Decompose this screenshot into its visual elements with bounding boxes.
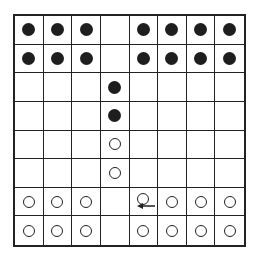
board-cell-r2-c7 xyxy=(215,73,244,102)
board-cell-r1-c2 xyxy=(72,45,101,74)
board-cell-r7-c5 xyxy=(158,216,187,245)
arrow-left-icon xyxy=(137,202,155,210)
board-cell-r6-c6 xyxy=(187,188,216,217)
board-cell-r0-c0 xyxy=(15,16,44,45)
board-cell-r5-c5 xyxy=(158,159,187,188)
board-cell-r3-c2 xyxy=(72,102,101,131)
board-cell-r0-c6 xyxy=(187,16,216,45)
black-piece-icon xyxy=(165,23,178,36)
board-cell-r7-c0 xyxy=(15,216,44,245)
board-cell-r4-c1 xyxy=(44,131,73,160)
board-cell-r5-c3 xyxy=(101,159,130,188)
white-piece-icon xyxy=(224,196,236,208)
board-cell-r2-c5 xyxy=(158,73,187,102)
board-cell-r5-c7 xyxy=(215,159,244,188)
board-cell-r5-c0 xyxy=(15,159,44,188)
board-cell-r4-c3 xyxy=(101,131,130,160)
board-cell-r2-c6 xyxy=(187,73,216,102)
board-cell-r1-c3 xyxy=(101,45,130,74)
white-piece-icon xyxy=(195,196,207,208)
white-piece-icon xyxy=(80,196,92,208)
board-cell-r7-c3 xyxy=(101,216,130,245)
board-cell-r2-c2 xyxy=(72,73,101,102)
white-piece-icon xyxy=(166,196,178,208)
board-cell-r6-c2 xyxy=(72,188,101,217)
black-piece-icon xyxy=(22,52,35,65)
game-board xyxy=(13,14,246,247)
board-cell-r0-c4 xyxy=(130,16,159,45)
board-cell-r1-c1 xyxy=(44,45,73,74)
board-cell-r0-c1 xyxy=(44,16,73,45)
board-cell-r6-c7 xyxy=(215,188,244,217)
board-cell-r6-c1 xyxy=(44,188,73,217)
board-cell-r3-c4 xyxy=(130,102,159,131)
board-cell-r4-c7 xyxy=(215,131,244,160)
white-piece-icon xyxy=(166,225,178,237)
board-cell-r1-c4 xyxy=(130,45,159,74)
black-piece-icon xyxy=(137,23,150,36)
board-cell-r7-c7 xyxy=(215,216,244,245)
black-piece-icon xyxy=(137,52,150,65)
board-cell-r0-c5 xyxy=(158,16,187,45)
black-piece-icon xyxy=(22,23,35,36)
board-cell-r2-c4 xyxy=(130,73,159,102)
white-piece-icon xyxy=(137,225,149,237)
board-cell-r3-c3 xyxy=(101,102,130,131)
white-piece-icon xyxy=(51,225,63,237)
white-piece-icon xyxy=(23,196,35,208)
black-piece-icon xyxy=(165,52,178,65)
board-cell-r1-c5 xyxy=(158,45,187,74)
black-piece-icon xyxy=(51,23,64,36)
white-piece-icon xyxy=(51,196,63,208)
board-cell-r4-c6 xyxy=(187,131,216,160)
board-cell-r5-c2 xyxy=(72,159,101,188)
board-cell-r6-c3 xyxy=(101,188,130,217)
black-piece-icon xyxy=(223,52,236,65)
board-cell-r3-c6 xyxy=(187,102,216,131)
black-piece-icon xyxy=(108,81,121,94)
white-piece-icon xyxy=(224,225,236,237)
black-piece-icon xyxy=(108,109,121,122)
black-piece-icon xyxy=(194,23,207,36)
board-cell-r0-c2 xyxy=(72,16,101,45)
board-cell-r1-c7 xyxy=(215,45,244,74)
black-piece-icon xyxy=(194,52,207,65)
board-cell-r4-c5 xyxy=(158,131,187,160)
board-cell-r2-c3 xyxy=(101,73,130,102)
board-cell-r5-c4 xyxy=(130,159,159,188)
board-cell-r7-c1 xyxy=(44,216,73,245)
board-cell-r3-c0 xyxy=(15,102,44,131)
black-piece-icon xyxy=(80,23,93,36)
board-cell-r3-c7 xyxy=(215,102,244,131)
board-cell-r7-c4 xyxy=(130,216,159,245)
board-cell-r3-c5 xyxy=(158,102,187,131)
board-cell-r4-c4 xyxy=(130,131,159,160)
board-cell-r6-c5 xyxy=(158,188,187,217)
board-cell-r5-c1 xyxy=(44,159,73,188)
board-cell-r5-c6 xyxy=(187,159,216,188)
board-cell-r1-c6 xyxy=(187,45,216,74)
black-piece-icon xyxy=(80,52,93,65)
board-cell-r2-c0 xyxy=(15,73,44,102)
board-cell-r0-c7 xyxy=(215,16,244,45)
white-piece-icon xyxy=(80,225,92,237)
black-piece-icon xyxy=(51,52,64,65)
board-cell-r7-c6 xyxy=(187,216,216,245)
board-cell-r6-c0 xyxy=(15,188,44,217)
white-piece-icon xyxy=(195,225,207,237)
board-cell-r2-c1 xyxy=(44,73,73,102)
black-piece-icon xyxy=(223,23,236,36)
white-piece-icon xyxy=(23,225,35,237)
board-cell-r7-c2 xyxy=(72,216,101,245)
board-cell-r0-c3 xyxy=(101,16,130,45)
board-cell-r1-c0 xyxy=(15,45,44,74)
board-cell-r3-c1 xyxy=(44,102,73,131)
board-cell-r4-c2 xyxy=(72,131,101,160)
white-piece-icon xyxy=(109,167,121,179)
board-cell-r6-c4 xyxy=(130,188,159,217)
white-piece-icon xyxy=(109,138,121,150)
board-cell-r4-c0 xyxy=(15,131,44,160)
